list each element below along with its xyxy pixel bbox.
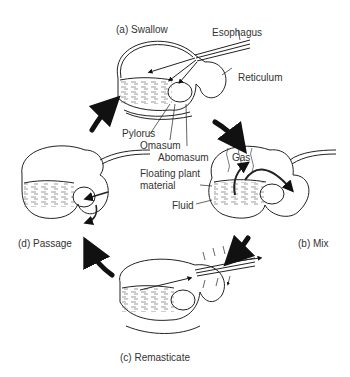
arrow-swallow-to-mix bbox=[215, 122, 238, 142]
label-floating-plant-material-line2: material bbox=[140, 180, 176, 191]
label-gas: Gas bbox=[232, 152, 250, 163]
stomach-remasticate bbox=[120, 246, 260, 334]
arrow-mix-to-remasticate bbox=[234, 238, 248, 256]
stage-label-remasticate: (c) Remasticate bbox=[120, 352, 190, 363]
arrow-passage-to-swallow bbox=[92, 106, 110, 130]
label-omasum: Omasum bbox=[140, 140, 181, 151]
stage-label-passage: (d) Passage bbox=[18, 238, 72, 249]
arrow-remasticate-to-passage bbox=[90, 250, 112, 275]
label-floating-plant-material-line1: Floating plant bbox=[140, 168, 200, 179]
stomach-mix bbox=[196, 146, 336, 218]
stage-label-mix: (b) Mix bbox=[298, 238, 329, 249]
rumen-cycle-diagram: (a) Swallow (b) Mix (c) Remasticate (d) … bbox=[0, 0, 350, 377]
stomach-passage bbox=[22, 146, 150, 222]
label-esophagus: Esophagus bbox=[212, 27, 262, 38]
label-fluid: Fluid bbox=[172, 200, 194, 211]
label-reticulum: Reticulum bbox=[238, 72, 282, 83]
stage-label-swallow: (a) Swallow bbox=[116, 24, 168, 35]
label-pylorus: Pylorus bbox=[122, 128, 155, 139]
label-abomasum: Abomasum bbox=[158, 152, 209, 163]
